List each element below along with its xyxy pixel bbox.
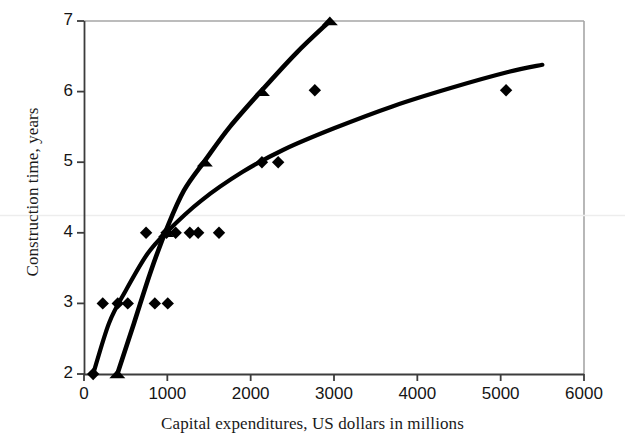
triangle-marker	[254, 87, 270, 96]
diamond-marker	[149, 297, 161, 309]
diamond-trend-curve	[93, 65, 542, 374]
scatter-plot	[0, 0, 625, 447]
diamond-marker	[192, 227, 204, 239]
x-axis	[84, 374, 584, 381]
data-markers-layer	[87, 16, 512, 380]
diamond-marker	[309, 84, 321, 96]
y-tick-label: 6	[47, 81, 73, 101]
y-tick-label: 2	[47, 363, 73, 383]
x-tick-label: 2000	[221, 384, 281, 404]
y-axis	[77, 21, 85, 374]
y-axis-ticks	[77, 21, 84, 374]
x-tick-label: 0	[54, 384, 114, 404]
x-tick-label: 5000	[471, 384, 531, 404]
x-axis-title: Capital expenditures, US dollars in mill…	[0, 414, 625, 434]
diamond-marker	[213, 227, 225, 239]
y-tick-label: 7	[47, 10, 73, 30]
y-tick-label: 3	[47, 292, 73, 312]
y-axis-title: Construction time, years	[23, 107, 43, 276]
diamond-marker	[97, 297, 109, 309]
diamond-marker	[140, 227, 152, 239]
diamond-marker	[87, 368, 99, 380]
trend-curves-layer	[93, 21, 542, 374]
diamond-marker	[272, 156, 284, 168]
chart-container: 0100020003000400050006000 234567 Capital…	[0, 0, 625, 447]
x-tick-label: 3000	[304, 384, 364, 404]
y-tick-label: 5	[47, 151, 73, 171]
diamond-marker	[122, 297, 134, 309]
diamond-marker	[162, 297, 174, 309]
triangle-marker	[197, 158, 213, 167]
diamond-marker	[500, 84, 512, 96]
x-tick-label: 6000	[554, 384, 614, 404]
triangle-trend-curve	[117, 21, 329, 374]
x-tick-label: 1000	[137, 384, 197, 404]
x-tick-label: 4000	[387, 384, 447, 404]
y-tick-label: 4	[47, 222, 73, 242]
y-axis-title-wrapper: Construction time, years	[23, 27, 47, 357]
